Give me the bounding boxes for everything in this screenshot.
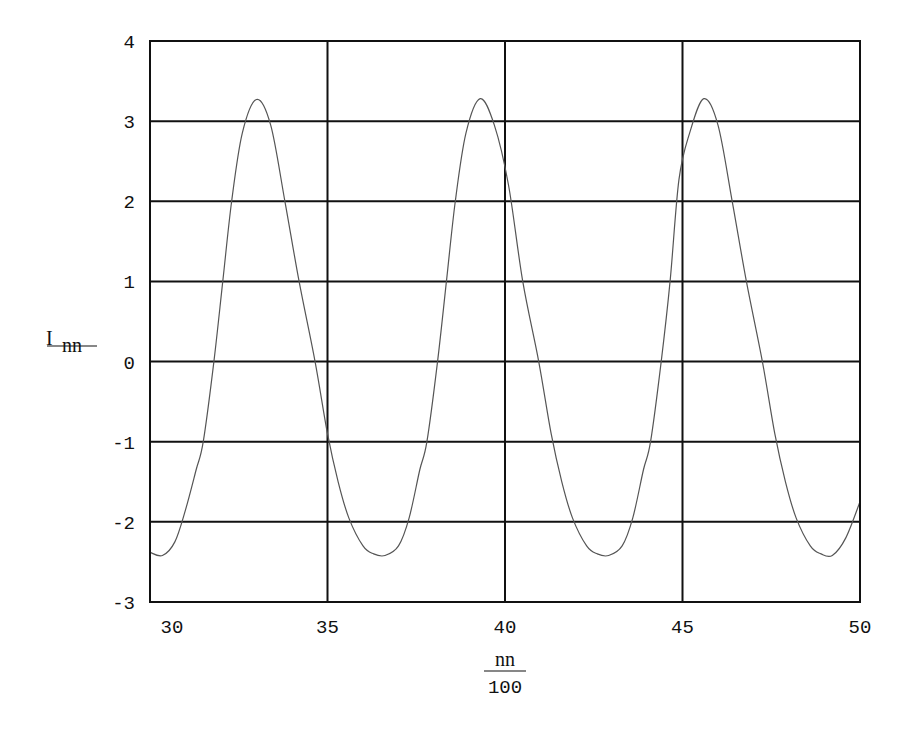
x-tick-label: 35	[316, 617, 339, 639]
y-tick-label: 3	[124, 112, 135, 134]
grid-lines	[150, 41, 860, 602]
y-tick-label: -3	[112, 593, 135, 615]
chart: 3035404550 -3-2-101234 I nn nn 100	[0, 0, 908, 731]
x-axis-label: nn 100	[484, 648, 526, 699]
x-axis-label-numerator: nn	[495, 648, 515, 670]
x-tick-label: 50	[849, 617, 872, 639]
y-tick-label: 4	[124, 32, 135, 54]
y-tick-label: 2	[124, 192, 135, 214]
x-tick-label: 30	[161, 617, 184, 639]
x-tick-label: 45	[671, 617, 694, 639]
x-axis-tick-labels: 3035404550	[161, 617, 872, 639]
y-tick-label: 1	[124, 272, 135, 294]
y-tick-label: 0	[124, 353, 135, 375]
y-tick-label: -2	[112, 513, 135, 535]
y-axis-tick-labels: -3-2-101234	[112, 32, 135, 615]
y-tick-label: -1	[112, 433, 135, 455]
x-tick-label: 40	[494, 617, 517, 639]
x-axis-label-denominator: 100	[488, 677, 522, 699]
y-axis-label-subscript: nn	[62, 334, 82, 356]
y-axis-label: I nn	[46, 327, 97, 356]
